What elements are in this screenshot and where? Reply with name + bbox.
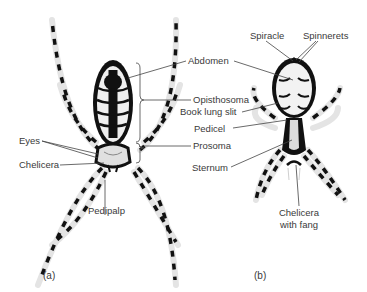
- spider-ventral-view: [253, 57, 345, 200]
- spider-anatomy-diagram: [0, 0, 367, 292]
- label-abdomen: Abdomen: [188, 56, 229, 66]
- label-pedicel: Pedicel: [194, 124, 225, 134]
- spider-dorsal-view: [38, 20, 180, 285]
- label-chelicera-line2: with fang: [274, 220, 324, 230]
- label-spiracle: Spiracle: [250, 31, 284, 41]
- label-chelicera-with-fang: Chelicera with fang: [274, 208, 324, 229]
- label-book-lung-slit: Book lung slit: [180, 107, 237, 117]
- label-chelicera: Chelicera: [19, 160, 59, 170]
- caption-panel-a: (a): [43, 271, 55, 281]
- label-eyes: Eyes: [19, 136, 40, 146]
- label-chelicera-line1: Chelicera: [274, 208, 324, 218]
- label-pedipalp: Pedipalp: [88, 206, 125, 216]
- label-prosoma: Prosoma: [193, 141, 231, 151]
- label-spinnerets: Spinnerets: [303, 31, 348, 41]
- label-sternum: Sternum: [192, 163, 228, 173]
- label-opisthosoma: Opisthosoma: [193, 95, 249, 105]
- caption-panel-b: (b): [254, 271, 266, 281]
